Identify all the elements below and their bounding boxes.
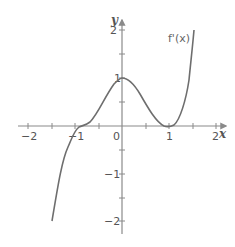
x-axis-label: x [218, 127, 227, 141]
curve-label: f'(x) [168, 32, 190, 45]
chart-canvas: −2 −1 0 1 2 2 1 −1 −2 x y f'(x) [0, 0, 235, 247]
x-tick-label: 2 [212, 130, 219, 143]
y-axis-label: y [110, 13, 119, 27]
y-tick-label: −1 [104, 168, 120, 181]
x-tick-label: 1 [166, 130, 173, 143]
y-tick-label: −2 [104, 215, 120, 228]
x-tick-label: 0 [113, 130, 120, 143]
x-tick-label: −2 [21, 130, 37, 143]
